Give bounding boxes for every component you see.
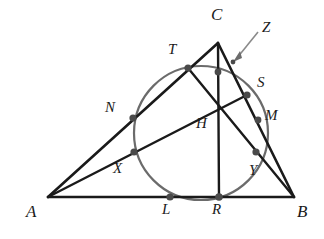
geometry-diagram: A B C T N S M H X Y L R Z	[0, 0, 324, 239]
point-N	[129, 114, 136, 121]
altitude-a-to-s	[48, 95, 247, 197]
nine-point-circle	[134, 66, 268, 200]
point-R	[215, 193, 223, 201]
vertex-label-c: C	[211, 6, 222, 23]
vertex-label-a: A	[26, 203, 36, 220]
point-Y	[252, 148, 259, 155]
point-label-s: S	[257, 75, 265, 90]
point-circle-top-on-altitude	[215, 69, 222, 76]
point-label-t: T	[168, 42, 176, 57]
z-leader-line	[233, 32, 258, 62]
altitude-c-to-r	[218, 43, 219, 197]
point-label-x: X	[113, 161, 122, 176]
point-label-y: Y	[249, 163, 257, 178]
point-label-z: Z	[262, 20, 270, 35]
point-label-h: H	[196, 116, 207, 131]
point-S	[243, 91, 250, 98]
point-label-m: M	[265, 108, 278, 123]
point-label-n: N	[105, 100, 115, 115]
point-M	[255, 117, 262, 124]
point-L	[166, 193, 173, 200]
point-T	[184, 64, 191, 71]
point-label-r: R	[212, 202, 221, 217]
vertex-label-b: B	[297, 203, 307, 220]
point-label-l: L	[162, 202, 170, 217]
point-X	[130, 148, 137, 155]
point-Z	[231, 60, 236, 65]
